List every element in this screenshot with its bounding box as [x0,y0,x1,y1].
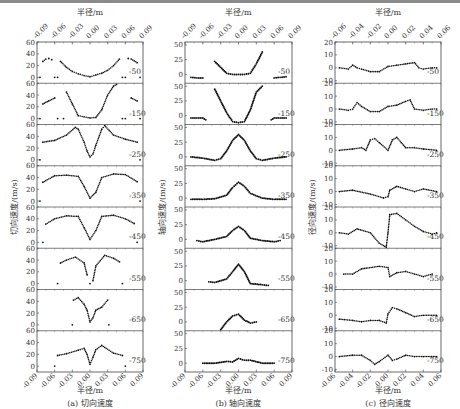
subplot--450: 02550-450 [174,206,295,243]
x-tick-label-top: 0.03 [251,24,268,41]
y-tick-label: 60 [26,80,35,88]
y-axis-title: 切向速度/(m/s) [9,179,19,234]
subplot--750: -1001020-750 [322,327,444,374]
y-tick-label: 60 [26,204,35,212]
y-tick-label: 20 [324,162,333,170]
y-tick-label: 40 [26,339,35,347]
depth-level-label: -550 [129,274,146,283]
depth-level-label: -150 [129,109,146,118]
y-tick-label: 40 [26,257,35,265]
y-tick-label: 10 [324,51,333,59]
x-tick-label-top: 0.06 [436,23,453,40]
depth-level-label: -650 [427,315,444,324]
depth-level-label: -450 [129,232,146,241]
subplot--250: 0204060-250 [26,121,146,164]
subplot--50: 0204060-50 [26,39,143,82]
x-tick-label-bottom: 0.06 [427,371,444,388]
subplot--750: 02550-750 [174,330,295,367]
y-tick-label: 50 [174,330,183,338]
depth-level-label: -350 [427,191,444,200]
depth-level-label: -450 [427,232,444,241]
subplot--650: 02550-650 [174,289,295,331]
x-tick-label-bottom: 0.06 [260,371,277,388]
subplot--150: 0204060-150 [26,80,146,123]
y-tick-label: 10 [324,258,333,266]
x-tick-label-bottom: -0.06 [39,371,58,390]
depth-level-label: -50 [278,67,290,76]
y-tick-label: 40 [26,133,35,141]
x-tick-label-top: 0.06 [120,23,137,40]
y-tick-label: 20 [26,186,35,194]
subplot--750: 0204060-750 [26,327,146,370]
subplot--50: 02550-50 [174,41,292,78]
y-tick-label: 20 [324,245,333,253]
y-tick-label: 0 [179,112,183,120]
y-tick-label: 60 [26,286,35,294]
y-tick-label: 20 [324,327,333,335]
y-tick-label: 10 [324,340,333,348]
y-tick-label: 20 [26,268,35,276]
y-tick-label: 0 [329,64,333,72]
y-tick-label: 40 [26,298,35,306]
y-tick-label: 0 [179,153,183,161]
y-tick-label: 10 [324,216,333,224]
x-axis-title-bottom: 半径/m [225,385,252,395]
y-tick-label: 60 [26,162,35,170]
subplot--550: -1001020-550 [322,245,444,292]
x-tick-label-top: 0.09 [138,24,155,41]
panel-a: -0.09-0.09-0.06-0.06-0.03-0.030.000.000.… [9,7,154,408]
x-tick-label-bottom: -0.03 [56,372,74,390]
y-tick-label: 10 [324,175,333,183]
x-tick-label-bottom: -0.02 [354,372,372,390]
y-tick-label: 60 [26,327,35,335]
y-tick-label: 25 [174,262,183,270]
y-tick-label: 50 [174,206,183,214]
y-tick-label: 0 [329,271,333,279]
y-tick-label: 0 [179,277,183,285]
subplot--650: -1001020-650 [322,286,444,333]
x-tick-label-top: 0.04 [418,23,435,40]
y-tick-label: 0 [179,71,183,79]
subplot--250: -1001020-250 [322,121,444,168]
y-tick-label: 25 [174,180,183,188]
y-tick-label: 20 [26,351,35,359]
depth-level-label: -250 [129,150,146,159]
x-axis-title-bottom: 半径/m [77,385,104,395]
x-tick-label-bottom: 0.09 [278,372,295,389]
y-tick-label: 25 [174,97,183,105]
y-tick-label: 40 [26,174,35,182]
y-tick-label: 0 [329,106,333,114]
panel-b: -0.09-0.09-0.06-0.06-0.03-0.030.000.000.… [157,7,303,408]
panel-caption: (c) 径向速度 [365,398,410,408]
x-axis-title-top: 半径/m [225,7,252,17]
subplot--650: 0204060-650 [26,286,146,329]
x-tick-label-top: -0.03 [215,22,233,40]
y-tick-label: 60 [26,121,35,129]
y-tick-label: 25 [174,345,183,353]
y-tick-label: 20 [26,103,35,111]
y-tick-label: 25 [174,221,183,229]
x-tick-label-top: 0.00 [85,24,102,41]
y-tick-label: 50 [174,83,183,91]
y-tick-label: 0 [179,236,183,244]
x-tick-label-top: -0.06 [198,22,217,41]
depth-level-label: -750 [427,356,444,365]
subplot--450: -1001020-450 [322,204,444,251]
x-tick-label-top: 0.02 [400,24,417,41]
x-tick-label-bottom: 0.06 [111,371,128,388]
x-tick-label-bottom: 0.09 [129,372,146,389]
y-tick-label: 20 [324,39,333,47]
y-tick-label: 50 [174,41,183,49]
depth-level-label: -750 [129,356,146,365]
x-tick-label-bottom: -0.09 [169,372,187,390]
depth-level-label: -650 [278,315,295,324]
panel-c: -0.06-0.06-0.04-0.04-0.02-0.020.000.000.… [307,7,453,408]
x-tick-label-top: -0.03 [67,22,85,40]
y-tick-label: 0 [179,360,183,368]
y-tick-label: 60 [26,245,35,253]
x-axis-title-bottom: 半径/m [375,385,402,395]
depth-level-label: -350 [129,191,146,200]
subplot--550: 0204060-550 [26,245,146,288]
x-tick-label-top: 0.03 [102,24,119,41]
y-tick-label: 40 [26,92,35,100]
